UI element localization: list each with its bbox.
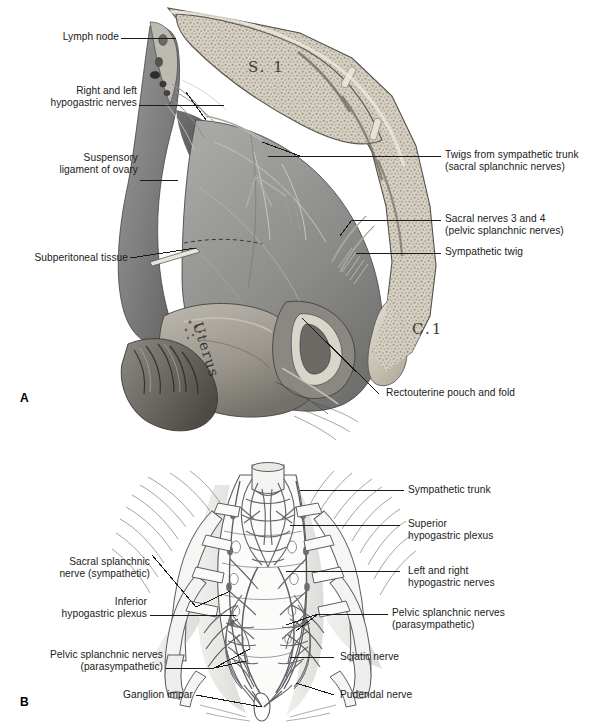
label-pudendal-nerve: Pudendal nerve [340, 689, 500, 701]
label-sacral-nerves-3-and-4: Sacral nerves 3 and 4 (pelvic splanchnic… [445, 213, 593, 238]
leader-pelvic-splanchnic-left-b [214, 661, 246, 668]
label-sympathetic-twig: Sympathetic twig [445, 246, 593, 258]
leader-pelvic-splanchnic-right [286, 614, 388, 625]
leader-pelvic-splanchnic-left [166, 649, 250, 668]
label-left-and-right-hypogastric-nerves: Left and right hypogastric nerves [408, 565, 588, 590]
label-sciatic-nerve: Sciatic nerve [340, 651, 500, 663]
label-sacral-splanchnic-nerve: Sacral splanchnic nerve (sympathetic) [0, 556, 150, 581]
leader-sacral-splanchnic-nerve [152, 555, 230, 607]
label-pelvic-splanchnic-nerves-left: Pelvic splanchnic nerves (parasympatheti… [0, 649, 163, 674]
label-sympathetic-trunk: Sympathetic trunk [408, 484, 588, 496]
art-label-sacral-vertebra-1: S. 1 [248, 58, 285, 76]
panel-a-dissection: S. 1 C.1 Uterus Lymph node Right and lef… [0, 0, 593, 455]
leader-pudendal-nerve [296, 683, 334, 695]
label-suspensory-ligament-of-ovary: Suspensory ligament of ovary [0, 152, 138, 177]
leader-hypogastric-nerves-branch [186, 92, 206, 120]
leader-pelvic-splanchnic-right-b [296, 614, 318, 631]
panel-letter-a: A [20, 391, 29, 405]
label-rectouterine-pouch-and-fold: Rectouterine pouch and fold [386, 387, 586, 399]
panel-letter-b: B [20, 695, 29, 709]
leader-sacral-nerves-branch [340, 220, 352, 236]
label-right-and-left-hypogastric-nerves: Right and left hypogastric nerves [0, 85, 137, 110]
label-inferior-hypogastric-plexus: Inferior hypogastric plexus [0, 596, 147, 621]
leader-rectouterine-pouch [302, 318, 379, 394]
art-label-uterus: Uterus [190, 320, 223, 380]
label-lymph-node: Lymph node [0, 31, 119, 43]
label-superior-hypogastric-plexus: Superior hypogastric plexus [408, 518, 588, 543]
label-twigs-from-sympathetic-trunk: Twigs from sympathetic trunk (sacral spl… [445, 149, 593, 174]
panel-b-diagram: Sympathetic trunk Superior hypogastric p… [0, 455, 593, 728]
leader-ganglion-impar [196, 695, 262, 707]
leader-subperitoneal-tissue [130, 248, 196, 258]
art-label-coccyx-1: C.1 [412, 320, 443, 338]
label-subperitoneal-tissue: Subperitoneal tissue [0, 252, 128, 264]
anatomical-figure: S. 1 C.1 Uterus Lymph node Right and lef… [0, 0, 593, 728]
label-pelvic-splanchnic-nerves-right: Pelvic splanchnic nerves (parasympatheti… [392, 607, 588, 632]
leader-twigs-branch [262, 142, 300, 156]
